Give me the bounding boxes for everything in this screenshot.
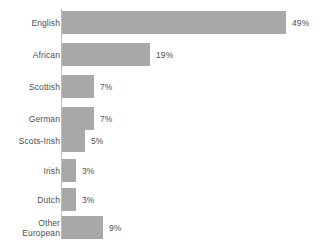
bar-value-label: 49% xyxy=(292,18,309,28)
bar-wrapper: 7% xyxy=(62,75,113,98)
bar-fill xyxy=(62,188,76,211)
bar-wrapper: 9% xyxy=(62,216,122,239)
bar-row: African 19% xyxy=(0,43,332,66)
bar-category-label: African xyxy=(2,50,60,60)
bar-wrapper: 7% xyxy=(62,107,113,130)
bar-category-label: Scots-Irish xyxy=(2,136,60,146)
bar-category-label: Scottish xyxy=(2,82,60,92)
bar-value-label: 9% xyxy=(109,223,122,233)
bar-fill xyxy=(62,75,94,98)
bar-category-label: English xyxy=(2,18,60,28)
bar-fill xyxy=(62,43,150,66)
bar-value-label: 3% xyxy=(82,195,95,205)
bar-wrapper: 19% xyxy=(62,43,173,66)
bar-row: Scottish 7% xyxy=(0,75,332,98)
bar-category-label: German xyxy=(2,114,60,124)
bar-row: Irish 3% xyxy=(0,159,332,182)
bar-fill xyxy=(62,11,286,34)
bar-value-label: 3% xyxy=(82,166,95,176)
bar-fill xyxy=(62,216,103,239)
bar-value-label: 7% xyxy=(100,114,113,124)
bar-chart: English 49% African 19% Scottish 7% Germ… xyxy=(0,0,332,246)
bar-value-label: 7% xyxy=(100,82,113,92)
bar-wrapper: 3% xyxy=(62,159,95,182)
bar-category-label: Other European xyxy=(2,218,60,238)
bar-category-label: Dutch xyxy=(2,195,60,205)
bar-row: German 7% xyxy=(0,107,332,130)
bar-fill xyxy=(62,159,76,182)
bar-category-label: Irish xyxy=(2,166,60,176)
bar-value-label: 5% xyxy=(91,136,104,146)
bar-row: Scots-Irish 5% xyxy=(0,129,332,152)
bar-wrapper: 49% xyxy=(62,11,309,34)
bar-value-label: 19% xyxy=(156,50,173,60)
bar-row: Dutch 3% xyxy=(0,188,332,211)
bar-fill xyxy=(62,107,94,130)
bar-fill xyxy=(62,129,85,152)
bar-wrapper: 5% xyxy=(62,129,104,152)
bar-wrapper: 3% xyxy=(62,188,95,211)
bar-row: English 49% xyxy=(0,11,332,34)
bar-row: Other European 9% xyxy=(0,216,332,239)
